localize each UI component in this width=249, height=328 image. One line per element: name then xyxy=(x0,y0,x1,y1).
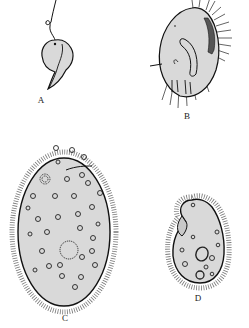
label-d: D xyxy=(188,293,208,303)
cell-c xyxy=(12,146,116,313)
cell-b xyxy=(150,0,232,108)
protozoa-figure xyxy=(0,0,249,328)
label-a: A xyxy=(31,95,51,105)
cell-d xyxy=(168,196,230,288)
label-b: B xyxy=(177,111,197,121)
label-c: C xyxy=(55,313,75,323)
cell-a xyxy=(42,0,73,89)
